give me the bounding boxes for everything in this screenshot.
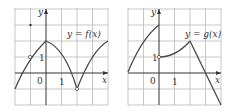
tick-y-label-f: 1 (39, 53, 45, 63)
tick-x-label-f: 1 (59, 77, 65, 87)
x-axis-label-f: x (102, 75, 107, 85)
origin-label-g: 0 (150, 76, 156, 86)
x-axis-label-g: x (215, 75, 220, 85)
y-axis-arrow-icon (44, 9, 48, 14)
y-axis-label-g: y (150, 7, 157, 17)
tick-x-label-g: 1 (172, 77, 178, 87)
open-point-f-cusp (75, 87, 78, 90)
open-point-g (157, 55, 160, 58)
graphs-figure: y x 0 1 1 y = f(x) y (0, 0, 229, 112)
y-axis-label-f: y (37, 7, 44, 17)
filled-point-f (29, 24, 31, 26)
origin-label-f: 0 (37, 76, 43, 86)
function-label-f: y = f(x) (66, 29, 101, 39)
grid-g (128, 8, 221, 105)
tick-y-label-g: 1 (152, 53, 158, 63)
function-label-g: y = g(x) (184, 29, 222, 39)
open-point-f (28, 55, 31, 58)
graph-g: y x 0 1 1 y = g(x) (128, 7, 222, 105)
y-axis-arrow-icon (157, 9, 161, 14)
graph-f: y x 0 1 1 y = f(x) (15, 7, 108, 105)
